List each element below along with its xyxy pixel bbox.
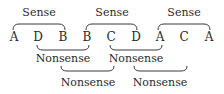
sense-label-2: Sense (95, 7, 128, 19)
nonsense-label-2: Nonsense (109, 53, 164, 65)
letter-1: A (10, 31, 19, 44)
letter-9: A (205, 31, 214, 44)
letter-4: B (83, 31, 92, 44)
nonsense-label-3: Nonsense (61, 77, 116, 89)
nonsense-label-4: Nonsense (133, 77, 188, 89)
sense-label-3: Sense (167, 7, 200, 19)
sense-label-1: Sense (22, 7, 55, 19)
letter-3: B (59, 31, 68, 44)
bottom-bracket-4 (134, 66, 187, 71)
bottom-bracket-1 (37, 45, 89, 50)
letter-5: C (106, 31, 115, 44)
nonsense-label-1: Nonsense (36, 53, 91, 65)
bottom-bracket-3 (61, 66, 114, 71)
letter-7: A (156, 31, 165, 44)
sense-nonsense-diagram: Sense Sense Sense A D B B C D A C A Nons… (0, 0, 224, 94)
bottom-bracket-2 (110, 45, 162, 50)
letter-8: C (179, 31, 188, 44)
letter-2: D (33, 31, 43, 44)
letter-6: D (131, 31, 141, 44)
